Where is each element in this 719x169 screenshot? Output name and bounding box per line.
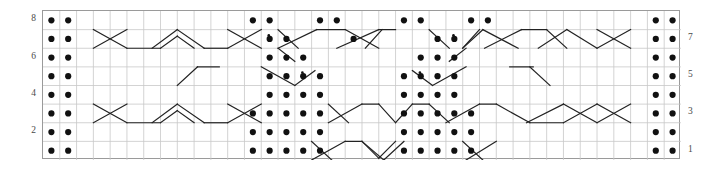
purl-dot bbox=[267, 36, 273, 42]
cable-cross-line bbox=[538, 30, 567, 49]
purl-dot bbox=[317, 92, 323, 98]
purl-dot bbox=[418, 148, 424, 154]
purl-dot bbox=[300, 54, 306, 60]
purl-dot bbox=[653, 54, 659, 60]
purl-dot bbox=[669, 129, 675, 135]
purl-dot bbox=[65, 110, 71, 116]
purl-dot bbox=[434, 54, 440, 60]
purl-dot bbox=[669, 54, 675, 60]
purl-dot bbox=[317, 129, 323, 135]
purl-dot bbox=[300, 129, 306, 135]
cable-cross-line bbox=[379, 141, 396, 158]
purl-dot bbox=[250, 148, 256, 154]
purl-dot bbox=[317, 17, 323, 23]
purl-dot bbox=[48, 148, 54, 154]
purl-dot bbox=[283, 73, 289, 79]
cable-cross-line bbox=[362, 141, 384, 160]
purl-dot bbox=[250, 110, 256, 116]
chart-grid bbox=[42, 10, 680, 159]
purl-dot bbox=[401, 148, 407, 154]
purl-dot bbox=[451, 54, 457, 60]
purl-dot bbox=[451, 92, 457, 98]
cable-cross-line bbox=[567, 30, 597, 49]
purl-dot bbox=[48, 129, 54, 135]
purl-dot bbox=[451, 110, 457, 116]
purl-dot bbox=[267, 129, 273, 135]
cable-cross-line bbox=[337, 30, 379, 49]
purl-dot bbox=[418, 17, 424, 23]
purl-dot bbox=[653, 110, 659, 116]
small-purl-dot bbox=[419, 71, 422, 74]
cable-cross-line bbox=[527, 104, 564, 123]
purl-dot bbox=[653, 36, 659, 42]
purl-dot bbox=[283, 36, 289, 42]
purl-dot bbox=[418, 129, 424, 135]
purl-dot bbox=[334, 17, 340, 23]
small-purl-dot bbox=[301, 71, 304, 74]
purl-dot bbox=[401, 17, 407, 23]
small-purl-dot bbox=[452, 34, 455, 37]
purl-dot bbox=[283, 148, 289, 154]
purl-dot bbox=[468, 129, 474, 135]
cable-cross-line bbox=[485, 30, 522, 49]
purl-dot bbox=[250, 17, 256, 23]
purl-dot bbox=[434, 73, 440, 79]
purl-dot bbox=[434, 129, 440, 135]
purl-dot bbox=[65, 148, 71, 154]
cable-cross-line bbox=[379, 104, 396, 123]
purl-dot bbox=[468, 148, 474, 154]
purl-dot bbox=[401, 129, 407, 135]
row-label-3: 3 bbox=[688, 107, 706, 117]
purl-dot bbox=[451, 129, 457, 135]
row-label-1: 1 bbox=[688, 145, 706, 155]
purl-dot bbox=[669, 148, 675, 154]
purl-dot bbox=[468, 110, 474, 116]
purl-dot bbox=[65, 92, 71, 98]
purl-dot bbox=[300, 73, 306, 79]
purl-dot bbox=[653, 17, 659, 23]
purl-dot bbox=[300, 92, 306, 98]
purl-dot bbox=[418, 54, 424, 60]
purl-dot bbox=[434, 36, 440, 42]
purl-dot bbox=[65, 36, 71, 42]
purl-dot bbox=[48, 54, 54, 60]
purl-dot bbox=[401, 110, 407, 116]
purl-dot bbox=[317, 73, 323, 79]
purl-dot bbox=[300, 110, 306, 116]
purl-dot bbox=[451, 36, 457, 42]
purl-dot bbox=[669, 17, 675, 23]
purl-dot bbox=[48, 92, 54, 98]
purl-dot bbox=[401, 73, 407, 79]
purl-dot bbox=[65, 54, 71, 60]
purl-dot bbox=[468, 17, 474, 23]
purl-dot bbox=[48, 73, 54, 79]
purl-dot bbox=[434, 148, 440, 154]
purl-dot bbox=[65, 17, 71, 23]
purl-dot bbox=[485, 17, 491, 23]
purl-dot bbox=[451, 73, 457, 79]
purl-dot bbox=[267, 148, 273, 154]
purl-dot bbox=[317, 110, 323, 116]
row-label-6: 6 bbox=[18, 52, 36, 62]
purl-dot bbox=[48, 110, 54, 116]
purl-dot bbox=[350, 36, 356, 42]
row-label-7: 7 bbox=[688, 33, 706, 43]
purl-dot bbox=[434, 92, 440, 98]
purl-dot bbox=[653, 92, 659, 98]
purl-dot bbox=[48, 36, 54, 42]
purl-dot bbox=[267, 110, 273, 116]
purl-dot bbox=[653, 129, 659, 135]
purl-dot bbox=[401, 92, 407, 98]
cable-cross-line bbox=[177, 111, 194, 123]
purl-dot bbox=[283, 129, 289, 135]
purl-dot bbox=[65, 129, 71, 135]
purl-dot bbox=[267, 73, 273, 79]
purl-dot bbox=[267, 17, 273, 23]
cable-cross-line bbox=[177, 36, 194, 48]
purl-dot bbox=[418, 73, 424, 79]
purl-dot bbox=[653, 73, 659, 79]
chart-grid-svg bbox=[43, 11, 681, 160]
row-label-5: 5 bbox=[688, 70, 706, 80]
purl-dot bbox=[317, 148, 323, 154]
row-label-2: 2 bbox=[18, 126, 36, 136]
